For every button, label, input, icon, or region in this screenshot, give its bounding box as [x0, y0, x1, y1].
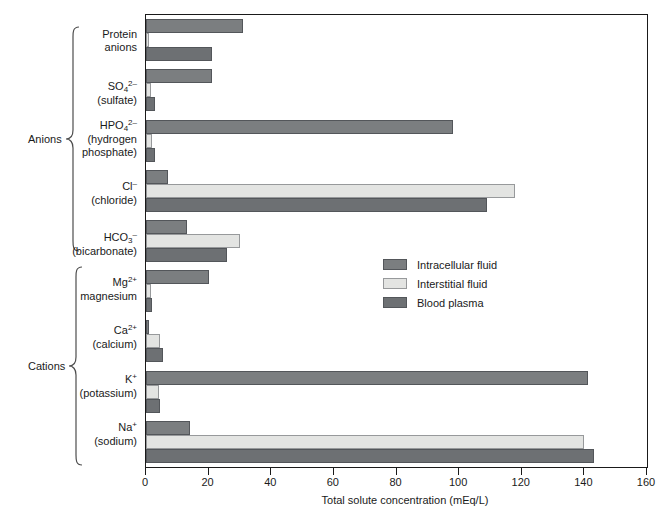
bar-interstitial-fluid-4	[146, 234, 240, 248]
bar-intracellular-fluid-0	[146, 421, 190, 435]
bar-blood-plasma-2	[146, 348, 163, 362]
x-tick-140	[583, 468, 584, 475]
bar-blood-plasma-4	[146, 248, 227, 262]
legend-swatch-intracellular-fluid	[383, 259, 407, 270]
bar-interstitial-fluid-7	[146, 83, 151, 97]
x-tick-160	[646, 468, 647, 475]
bar-interstitial-fluid-6	[146, 134, 152, 148]
legend-item-interstitial-fluid: Interstitial fluid	[383, 274, 497, 293]
x-tick-label-80: 80	[389, 476, 401, 488]
legend-label-interstitial-fluid: Interstitial fluid	[417, 278, 487, 290]
legend-item-blood-plasma: Blood plasma	[383, 293, 497, 312]
legend-swatch-interstitial-fluid	[383, 278, 407, 289]
bar-blood-plasma-6	[146, 148, 155, 162]
bar-intracellular-fluid-5	[146, 170, 168, 184]
category-label-hydrogen-phosphate: HPO42– (hydrogen phosphate)	[0, 119, 137, 159]
x-tick-120	[521, 468, 522, 475]
bar-intracellular-fluid-4	[146, 220, 187, 234]
x-tick-label-0: 0	[142, 476, 148, 488]
x-axis-title: Total solute concentration (mEq/L)	[0, 494, 664, 506]
x-tick-20	[208, 468, 209, 475]
bar-intracellular-fluid-1	[146, 371, 588, 385]
x-tick-100	[458, 468, 459, 475]
bar-intracellular-fluid-7	[146, 69, 212, 83]
x-tick-label-120: 120	[512, 476, 530, 488]
bar-blood-plasma-1	[146, 399, 160, 413]
legend-swatch-blood-plasma	[383, 297, 407, 308]
bar-blood-plasma-0	[146, 449, 594, 463]
category-label-sulfate: SO42– (sulfate)	[0, 80, 137, 107]
x-tick-label-40: 40	[264, 476, 276, 488]
category-label-column: Protein anions SO42– (sulfate) HPO42– (h…	[0, 0, 137, 517]
bar-intracellular-fluid-6	[146, 120, 453, 134]
x-tick-label-20: 20	[202, 476, 214, 488]
bar-interstitial-fluid-5	[146, 184, 515, 198]
x-tick-label-60: 60	[327, 476, 339, 488]
category-label-chloride: Cl– (chloride)	[0, 180, 137, 207]
bar-interstitial-fluid-3	[146, 284, 151, 298]
plot-area	[145, 14, 648, 468]
legend-item-intracellular-fluid: Intracellular fluid	[383, 255, 497, 274]
bar-interstitial-fluid-1	[146, 385, 159, 399]
bar-intracellular-fluid-8	[146, 19, 243, 33]
solute-concentration-chart: Anions Cations Protein anions SO42– (sul…	[0, 0, 664, 517]
x-tick-60	[333, 468, 334, 475]
x-tick-0	[145, 468, 146, 475]
x-tick-40	[270, 468, 271, 475]
category-label-calcium: Ca2+ (calcium)	[0, 324, 137, 351]
bar-interstitial-fluid-8	[146, 33, 149, 47]
category-label-sodium: Na+ (sodium)	[0, 421, 137, 448]
x-tick-label-140: 140	[574, 476, 592, 488]
bar-blood-plasma-7	[146, 97, 155, 111]
bar-blood-plasma-8	[146, 47, 212, 61]
x-tick-80	[396, 468, 397, 475]
bar-intracellular-fluid-2	[146, 320, 149, 334]
legend-label-intracellular-fluid: Intracellular fluid	[417, 259, 497, 271]
bar-interstitial-fluid-0	[146, 435, 584, 449]
x-tick-label-100: 100	[449, 476, 467, 488]
category-label-magnesium: Mg2+ magnesium	[0, 276, 137, 303]
bar-interstitial-fluid-2	[146, 334, 160, 348]
legend: Intracellular fluid Interstitial fluid B…	[383, 255, 497, 312]
category-label-potassium: K+ (potassium)	[0, 373, 137, 400]
bar-blood-plasma-3	[146, 298, 152, 312]
category-label-protein-anions: Protein anions	[0, 28, 137, 54]
legend-label-blood-plasma: Blood plasma	[417, 297, 484, 309]
bar-intracellular-fluid-3	[146, 270, 209, 284]
category-label-bicarbonate: HCO3– (bicarbonate)	[0, 231, 137, 258]
bar-blood-plasma-5	[146, 198, 487, 212]
x-tick-label-160: 160	[637, 476, 655, 488]
